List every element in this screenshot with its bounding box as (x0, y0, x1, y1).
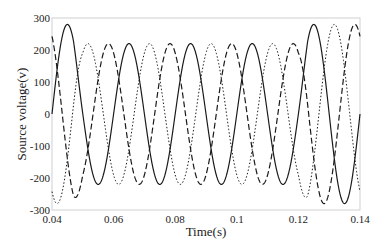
x-tick-label: 0.14 (350, 213, 370, 225)
x-tick-label: 0.06 (104, 213, 124, 225)
y-axis-label: Source voltage(v) (14, 68, 29, 161)
y-tick-label: -100 (30, 140, 51, 152)
x-axis-label: Time(s) (186, 224, 227, 239)
y-tick-label: -200 (30, 172, 51, 184)
x-tick-label: 0.08 (166, 213, 186, 225)
y-tick-label: 200 (34, 44, 51, 56)
series-lines (52, 24, 360, 203)
x-tick-label: 0.04 (42, 213, 62, 225)
y-tick-label: 0 (45, 108, 51, 120)
x-tick-label: 0.12 (289, 213, 308, 225)
x-tick-label: 0.1 (230, 213, 244, 225)
y-tick-label: 100 (34, 76, 51, 88)
y-axis-ticks: 3002001000-100-200-300 (30, 12, 51, 216)
y-tick-label: 300 (34, 12, 51, 24)
voltage-chart: 3002001000-100-200-300 0.040.060.080.10.… (0, 0, 386, 250)
